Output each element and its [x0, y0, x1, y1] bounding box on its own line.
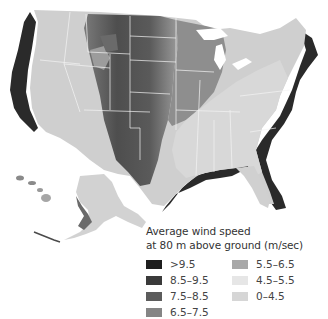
swatch [146, 260, 162, 269]
aleutians [34, 232, 60, 242]
legend-title-line2: at 80 m above ground (m/sec) [146, 239, 328, 253]
legend-label: 7.5–8.5 [170, 290, 209, 302]
swatch [146, 276, 162, 285]
alaska [64, 174, 146, 240]
legend-label: 0–4.5 [256, 290, 285, 302]
swatch [232, 260, 248, 269]
legend-item-6-5-7-5: 6.5–7.5 [146, 305, 209, 319]
legend-item-5-5-6-5: 5.5–6.5 [232, 257, 295, 271]
legend-item-8-5-9-5: 8.5–9.5 [146, 273, 209, 287]
swatch [146, 292, 162, 301]
legend-label: >9.5 [170, 258, 196, 270]
legend: Average wind speed at 80 m above ground … [146, 225, 328, 252]
legend-item-gt-9-5: >9.5 [146, 257, 196, 271]
swatch [146, 308, 162, 317]
legend-label: 5.5–6.5 [256, 258, 295, 270]
legend-label: 6.5–7.5 [170, 306, 209, 318]
legend-item-4-5-5-5: 4.5–5.5 [232, 273, 295, 287]
legend-title-line1: Average wind speed [146, 225, 328, 239]
legend-item-0-4-5: 0–4.5 [232, 289, 285, 303]
swatch [232, 292, 248, 301]
swatch [232, 276, 248, 285]
hawaii [16, 176, 51, 203]
legend-label: 4.5–5.5 [256, 274, 295, 286]
legend-item-7-5-8-5: 7.5–8.5 [146, 289, 209, 303]
legend-label: 8.5–9.5 [170, 274, 209, 286]
